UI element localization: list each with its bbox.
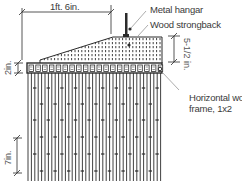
dimension-spacing-label: 7in. xyxy=(3,150,13,165)
band-dimension xyxy=(14,60,23,76)
callout-metal-hangar: Metal hangar xyxy=(150,4,203,15)
vertical-slats xyxy=(28,73,161,181)
callout-wood-strongback: Wood strongback xyxy=(150,19,221,30)
dimension-band-label: 2in. xyxy=(3,60,13,75)
dimension-width-label: 1ft. 6in. xyxy=(50,1,79,12)
spacing-dimension xyxy=(13,135,22,176)
dimension-height-label: 5-1/2 in. xyxy=(182,38,192,71)
horizontal-frame-band xyxy=(27,63,163,73)
diagram-canvas: 1ft. 6in. Metal hangar Wood strongback H… xyxy=(0,0,242,189)
callout-horizontal-frame-1: Horizontal wood xyxy=(189,92,242,103)
height-dimension xyxy=(168,33,180,65)
callout-horizontal-frame-2: frame, 1x2 xyxy=(189,103,232,114)
